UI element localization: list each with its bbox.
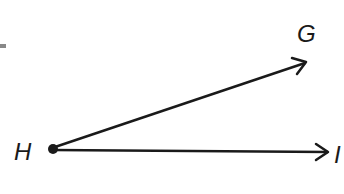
ray-hi bbox=[52, 150, 328, 152]
ray-hg bbox=[52, 63, 305, 148]
vertex-point bbox=[48, 144, 58, 154]
angle-diagram: G H I bbox=[0, 0, 344, 194]
label-h: H bbox=[14, 138, 32, 165]
label-i: I bbox=[334, 141, 341, 168]
label-g: G bbox=[297, 20, 316, 47]
edge-mark bbox=[0, 44, 6, 48]
